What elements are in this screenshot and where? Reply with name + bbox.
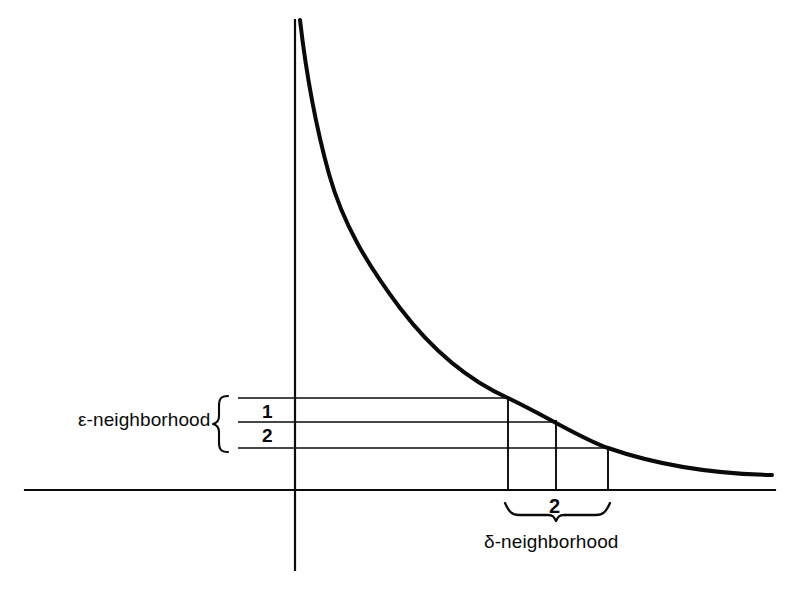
limit-diagram-svg [0, 0, 787, 596]
hyperbola-curve [300, 20, 772, 475]
limit-fraction-numerator: 1 [262, 402, 273, 421]
epsilon-neighborhood-label: ε-neighborhood [78, 410, 210, 429]
epsilon-brace [213, 396, 228, 452]
limit-fraction-denominator: 2 [262, 426, 273, 445]
approach-point-label: 2 [549, 496, 560, 516]
figure-canvas: ε-neighborhood 1 2 2 δ-neighborhood [0, 0, 787, 596]
delta-neighborhood-label: δ-neighborhood [484, 532, 619, 551]
